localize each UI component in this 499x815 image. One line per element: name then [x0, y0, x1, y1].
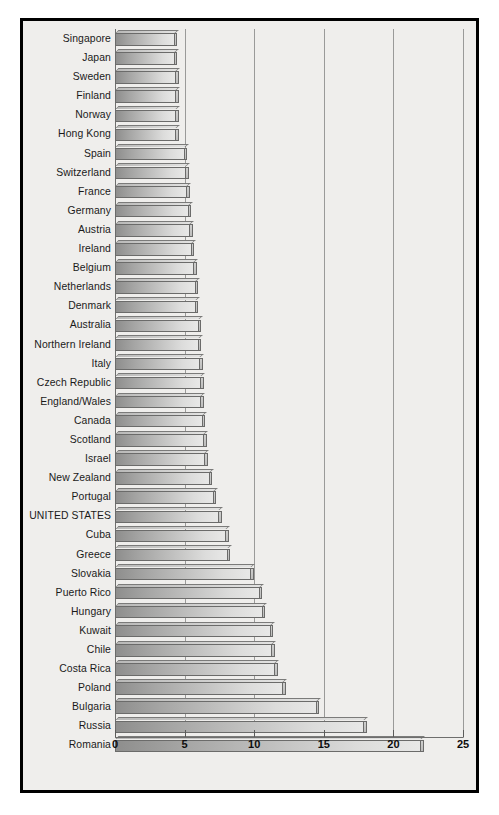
bar-front-face	[115, 224, 190, 236]
bar-row: Australia	[23, 315, 476, 334]
bar-row: Norway	[23, 105, 476, 124]
x-axis: 0510152025	[23, 738, 476, 768]
bar-bulgaria	[115, 697, 322, 716]
bar-label-united-states: UNITED STATES	[23, 506, 111, 525]
bar-norway	[115, 105, 181, 124]
x-tickmark-10	[254, 730, 255, 737]
bar-australia	[115, 315, 204, 334]
bar-front-face	[115, 453, 205, 465]
bar-row: Israel	[23, 449, 476, 468]
x-tick-10: 10	[234, 738, 274, 750]
bar-label-portugal: Portugal	[23, 487, 111, 506]
bar-puerto-rico	[115, 583, 265, 602]
bar-front-face	[115, 186, 187, 198]
bar-row: Puerto Rico	[23, 583, 476, 602]
bar-row: Slovakia	[23, 564, 476, 583]
bar-front-face	[115, 434, 204, 446]
bar-label-slovakia: Slovakia	[23, 564, 111, 583]
x-tick-25: 25	[443, 738, 483, 750]
chart-plot-area: SingaporeJapanSwedenFinlandNorwayHong Ko…	[23, 21, 476, 790]
bar-england-wales	[115, 392, 206, 411]
bar-row: UNITED STATES	[23, 506, 476, 525]
bar-front-face	[115, 148, 185, 160]
bar-label-sweden: Sweden	[23, 67, 111, 86]
bar-row: Portugal	[23, 487, 476, 506]
bar-front-face	[115, 721, 364, 733]
bar-label-singapore: Singapore	[23, 29, 111, 48]
bar-row: Singapore	[23, 29, 476, 48]
bar-row: Greece	[23, 545, 476, 564]
bar-row: Austria	[23, 220, 476, 239]
x-tickmark-0	[115, 730, 116, 737]
bar-hungary	[115, 602, 268, 621]
bar-ireland	[115, 239, 197, 258]
bar-chile	[115, 640, 277, 659]
x-tickmark-25	[463, 730, 464, 737]
bar-czech-republic	[115, 373, 206, 392]
bar-label-belgium: Belgium	[23, 258, 111, 277]
bar-netherlands	[115, 277, 201, 296]
bar-front-face	[115, 110, 176, 122]
bar-belgium	[115, 258, 199, 277]
bar-hong-kong	[115, 124, 181, 143]
bar-label-northern-ireland: Northern Ireland	[23, 335, 111, 354]
bar-row: Czech Republic	[23, 373, 476, 392]
bar-front-face	[115, 243, 192, 255]
bar-label-chile: Chile	[23, 640, 111, 659]
bar-row: Germany	[23, 201, 476, 220]
bar-front-face	[115, 491, 214, 503]
bar-front-face	[115, 701, 317, 713]
bar-costa-rica	[115, 659, 280, 678]
bar-front-face	[115, 377, 201, 389]
bar-greece	[115, 545, 233, 564]
bar-row: Canada	[23, 411, 476, 430]
bar-united-states	[115, 506, 224, 525]
bar-front-face	[115, 568, 251, 580]
bar-label-japan: Japan	[23, 48, 111, 67]
bar-label-czech-republic: Czech Republic	[23, 373, 111, 392]
bar-label-ireland: Ireland	[23, 239, 111, 258]
bar-row: Finland	[23, 86, 476, 105]
bar-poland	[115, 678, 288, 697]
bar-row: Russia	[23, 716, 476, 735]
bar-front-face	[115, 71, 176, 83]
bar-label-norway: Norway	[23, 105, 111, 124]
bar-label-france: France	[23, 182, 111, 201]
bar-row: Poland	[23, 678, 476, 697]
bar-row: Sweden	[23, 67, 476, 86]
bar-label-spain: Spain	[23, 144, 111, 163]
bar-row: Northern Ireland	[23, 335, 476, 354]
bar-label-costa-rica: Costa Rica	[23, 659, 111, 678]
bar-row: Scotland	[23, 430, 476, 449]
bar-front-face	[115, 358, 200, 370]
figure-caption	[22, 800, 472, 812]
bar-front-face	[115, 281, 196, 293]
bar-label-hong-kong: Hong Kong	[23, 124, 111, 143]
bar-label-england-wales: England/Wales	[23, 392, 111, 411]
bar-italy	[115, 354, 205, 373]
bar-israel	[115, 449, 210, 468]
bar-rows: SingaporeJapanSwedenFinlandNorwayHong Ko…	[23, 29, 476, 755]
x-tick-20: 20	[373, 738, 413, 750]
bar-new-zealand	[115, 468, 215, 487]
bar-row: Italy	[23, 354, 476, 373]
bar-front-face	[115, 320, 199, 332]
bar-germany	[115, 201, 194, 220]
bar-canada	[115, 411, 208, 430]
bar-front-face	[115, 549, 228, 561]
bar-singapore	[115, 29, 180, 48]
bar-front-face	[115, 511, 219, 523]
bar-label-finland: Finland	[23, 86, 111, 105]
bar-austria	[115, 220, 195, 239]
bar-label-switzerland: Switzerland	[23, 163, 111, 182]
bar-label-cuba: Cuba	[23, 525, 111, 544]
bar-label-bulgaria: Bulgaria	[23, 697, 111, 716]
bar-front-face	[115, 301, 196, 313]
bar-slovakia	[115, 564, 256, 583]
bar-label-poland: Poland	[23, 678, 111, 697]
bar-front-face	[115, 52, 175, 64]
bar-label-russia: Russia	[23, 716, 111, 735]
bar-front-face	[115, 530, 226, 542]
bar-row: Cuba	[23, 525, 476, 544]
bar-front-face	[115, 339, 199, 351]
